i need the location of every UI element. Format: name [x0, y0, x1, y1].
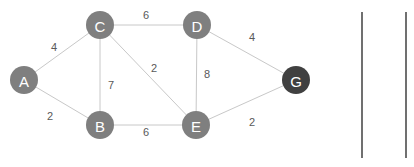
node-a: A [10, 66, 38, 94]
edge-weight-e-g: 2 [249, 116, 255, 128]
edge-weight-labels: 426728642 [47, 9, 255, 138]
node-label: B [95, 118, 105, 135]
edge-weight-c-b: 7 [108, 79, 114, 91]
node-c: C [86, 11, 114, 39]
edges-layer [24, 25, 296, 125]
node-e: E [182, 111, 210, 139]
edge-c-e [100, 25, 196, 125]
node-label: E [191, 118, 201, 135]
edge-a-c [24, 25, 100, 80]
node-b: B [86, 111, 114, 139]
edge-d-g [197, 25, 296, 80]
edge-weight-d-e: 8 [204, 68, 210, 80]
edge-weight-c-e: 2 [151, 62, 157, 74]
nodes-layer: ACDBEG [10, 11, 310, 139]
node-label: A [19, 73, 29, 90]
edge-weight-c-d: 6 [143, 9, 149, 21]
edge-weight-d-g: 4 [249, 31, 255, 43]
edge-e-g [196, 80, 296, 125]
graph-diagram: 426728642 ACDBEG [0, 0, 414, 167]
node-label: C [95, 18, 106, 35]
node-label: G [290, 73, 302, 90]
node-label: D [192, 18, 203, 35]
edge-weight-a-c: 4 [51, 41, 57, 53]
node-d: D [183, 11, 211, 39]
vertical-separators [362, 12, 406, 158]
node-g: G [282, 66, 310, 94]
edge-weight-b-e: 6 [143, 126, 149, 138]
edge-d-e [196, 25, 197, 125]
edge-weight-a-b: 2 [47, 110, 53, 122]
